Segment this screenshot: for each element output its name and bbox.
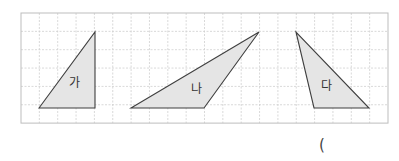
triangle-da-label: 다 [321,79,332,93]
triangle-ga-shape [39,32,95,108]
triangle-da: 다 [296,32,369,108]
triangle-na: 나 [131,32,259,108]
triangle-figure: 가 나 다 [0,0,399,161]
triangle-ga-label: 가 [69,76,80,90]
triangle-ga: 가 [39,32,95,108]
triangle-da-shape [296,32,369,108]
triangles-group: 가 나 다 [39,32,369,108]
triangle-na-label: 나 [191,82,202,96]
answer-blank-open-paren: ( [319,138,325,153]
triangle-na-shape [131,32,259,108]
